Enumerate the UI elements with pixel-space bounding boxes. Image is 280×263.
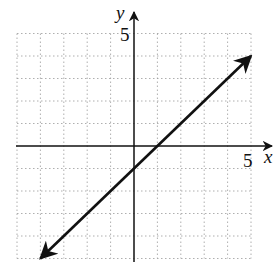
x-axis-label: x [264,147,272,166]
plotted-line [40,56,251,259]
y-tick-label-5: 5 [120,25,130,44]
y-axis-label: y [116,3,124,22]
x-tick-label-5: 5 [243,151,253,170]
coordinate-plane [0,0,280,263]
